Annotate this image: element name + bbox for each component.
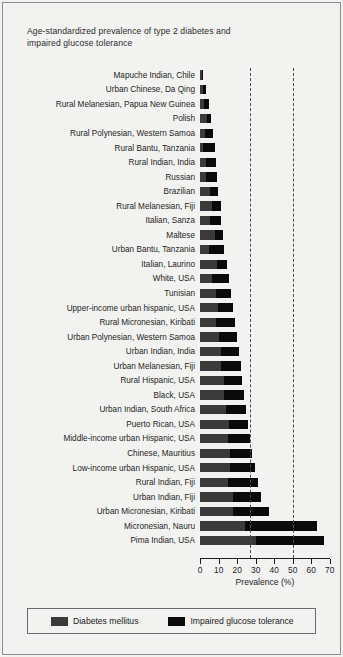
stacked-bar <box>200 434 250 443</box>
bar-segment-igt <box>221 347 240 356</box>
bar-row: Urban Indian, South Africa <box>0 403 343 418</box>
bar-row: Tunisian <box>0 286 343 301</box>
x-axis-tick <box>219 559 220 563</box>
bar-row: Rural Polynesian, Western Samoa <box>0 126 343 141</box>
bar-category-label: Urban Melanesian, Fiji <box>0 362 198 371</box>
stacked-bar <box>200 361 241 370</box>
chart-title-line-2: impaired glucose tolerance <box>27 38 307 50</box>
bar-segment-igt <box>203 143 215 152</box>
bar-row: Polish <box>0 112 343 127</box>
bar-plot-cell <box>198 112 341 127</box>
stacked-bar <box>200 303 233 312</box>
bar-segment-igt <box>212 274 229 283</box>
bar-plot-cell <box>198 446 341 461</box>
bar-category-label: Italian, Sanza <box>0 216 198 225</box>
bar-segment-diabetes <box>200 187 210 196</box>
x-axis-tick-label: 50 <box>288 565 297 575</box>
bar-segment-igt <box>206 172 217 181</box>
stacked-bar <box>200 463 255 472</box>
x-axis-tick-label: 20 <box>233 565 242 575</box>
stacked-bar <box>200 332 237 341</box>
bar-row: Urban Micronesian, Kiribati <box>0 504 343 519</box>
bar-segment-igt <box>212 201 220 210</box>
stacked-bar <box>200 376 242 385</box>
bar-category-label: Urban Polynesian, Western Samoa <box>0 333 198 342</box>
stacked-bar <box>200 390 243 399</box>
bar-segment-diabetes <box>200 376 224 385</box>
bar-plot-cell <box>198 301 341 316</box>
x-axis-tick <box>237 559 238 563</box>
bar-category-label: Urban Indian, Fiji <box>0 493 198 502</box>
bar-plot-cell <box>198 228 341 243</box>
bar-segment-igt <box>224 376 242 385</box>
bar-segment-igt <box>245 521 317 530</box>
bar-row: Italian, Sanza <box>0 213 343 228</box>
bar-category-label: Brazilian <box>0 187 198 196</box>
x-axis-tick <box>293 559 294 563</box>
bar-category-label: Low-income urban Hispanic, USA <box>0 464 198 473</box>
bar-row: Micronesian, Nauru <box>0 519 343 534</box>
x-axis-tick <box>256 559 257 563</box>
bar-plot-cell <box>198 184 341 199</box>
bar-segment-diabetes <box>200 216 210 225</box>
legend-label-igt: Impaired glucose tolerance <box>190 616 293 626</box>
bar-segment-igt <box>216 289 231 298</box>
bar-plot-cell <box>198 213 341 228</box>
bar-row: White, USA <box>0 272 343 287</box>
bar-segment-diabetes <box>200 260 217 269</box>
bar-row: Brazilian <box>0 184 343 199</box>
bar-row: Pima Indian, USA <box>0 534 343 549</box>
stacked-bar <box>200 318 235 327</box>
stacked-bar <box>200 449 252 458</box>
bar-segment-igt <box>205 129 213 138</box>
bar-plot-cell <box>198 534 341 549</box>
bar-segment-igt <box>207 114 212 123</box>
bar-row: Upper-income urban hispanic, USA <box>0 301 343 316</box>
bar-plot-cell <box>198 461 341 476</box>
bar-row: Rural Melanesian, Fiji <box>0 199 343 214</box>
stacked-bar <box>200 129 213 138</box>
bar-segment-igt <box>228 478 258 487</box>
bar-segment-igt <box>218 303 234 312</box>
bar-category-label: Rural Melanesian, Papua New Guinea <box>0 100 198 109</box>
bar-category-label: Black, USA <box>0 391 198 400</box>
stacked-bar <box>200 172 217 181</box>
bar-category-label: Chinese, Mauritius <box>0 449 198 458</box>
bar-row: Urban Polynesian, Western Samoa <box>0 330 343 345</box>
bar-category-label: Puerto Rican, USA <box>0 420 198 429</box>
bar-segment-igt <box>221 361 240 370</box>
chart-legend: Diabetes mellitus Impaired glucose toler… <box>27 608 316 634</box>
legend-label-diabetes: Diabetes mellitus <box>73 616 138 626</box>
bar-plot-cell <box>198 432 341 447</box>
stacked-bar <box>200 478 257 487</box>
bar-category-label: Rural Bantu, Tanzania <box>0 144 198 153</box>
stacked-bar <box>200 230 223 239</box>
bar-segment-igt <box>210 187 217 196</box>
bar-category-label: Rural Micronesian, Kiribati <box>0 318 198 327</box>
bar-row: Maltese <box>0 228 343 243</box>
bar-plot-cell <box>198 83 341 98</box>
bar-segment-diabetes <box>200 230 215 239</box>
bar-row: Rural Indian, Fiji <box>0 475 343 490</box>
x-axis-tick-label: 60 <box>307 565 316 575</box>
bar-row: Rural Melanesian, Papua New Guinea <box>0 97 343 112</box>
bar-segment-diabetes <box>200 347 220 356</box>
x-axis-tick-label: 30 <box>251 565 260 575</box>
bar-plot-cell <box>198 344 341 359</box>
bar-category-label: Upper-income urban hispanic, USA <box>0 304 198 313</box>
stacked-bar <box>200 420 248 429</box>
bar-segment-igt <box>230 449 252 458</box>
bar-row: Black, USA <box>0 388 343 403</box>
bar-row: Urban Indian, Fiji <box>0 490 343 505</box>
legend-swatch-diabetes <box>51 617 68 626</box>
bar-plot-cell <box>198 97 341 112</box>
bar-segment-diabetes <box>200 390 224 399</box>
bar-category-label: Italian, Laurino <box>0 260 198 269</box>
stacked-bar <box>200 274 229 283</box>
bar-plot-cell <box>198 417 341 432</box>
bar-plot-cell <box>198 330 341 345</box>
legend-swatch-igt <box>168 617 185 626</box>
bar-row: Middle-income urban Hispanic, USA <box>0 432 343 447</box>
bar-segment-diabetes <box>200 245 209 254</box>
bar-category-label: Urban Indian, South Africa <box>0 405 198 414</box>
